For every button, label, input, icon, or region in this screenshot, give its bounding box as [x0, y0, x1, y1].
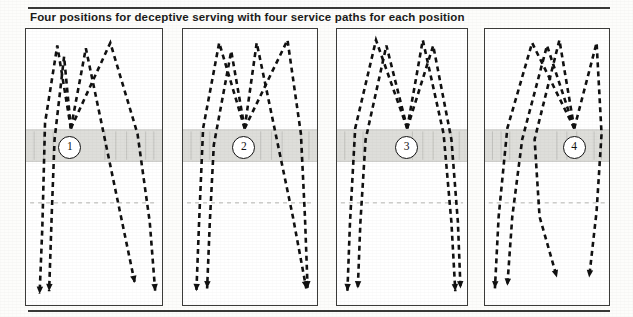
service-path-path-a — [347, 40, 407, 291]
net-band — [26, 130, 162, 162]
court-diagram-3: 3 — [336, 28, 468, 306]
path-arrowhead — [505, 278, 511, 285]
path-arrowhead — [204, 281, 210, 288]
path-arrowhead — [193, 284, 199, 291]
figure-title: Four positions for deceptive serving wit… — [30, 11, 610, 23]
court-paths-svg — [485, 29, 609, 305]
service-path-path-a — [495, 43, 574, 289]
figure-container: Four positions for deceptive serving wit… — [0, 0, 633, 317]
service-path-path-b — [507, 46, 574, 286]
service-path-path-c — [245, 43, 307, 289]
bottom-divider-rule — [28, 310, 610, 312]
court-paths-svg — [337, 29, 467, 305]
path-arrowhead — [355, 281, 361, 288]
top-divider-rule — [28, 7, 610, 9]
position-marker-3: 3 — [395, 136, 418, 159]
service-path-path-d — [71, 43, 155, 291]
path-arrowhead — [452, 284, 458, 291]
path-arrowhead — [457, 281, 463, 288]
service-path-path-b — [207, 51, 245, 288]
position-marker-4: 4 — [563, 136, 586, 159]
path-arrowhead — [37, 287, 43, 294]
path-arrowhead — [587, 270, 593, 278]
path-arrowhead — [344, 284, 350, 291]
service-path-path-c — [407, 40, 455, 291]
court-diagram-4: 4 — [484, 28, 610, 306]
path-arrowhead — [492, 281, 498, 288]
court-paths-svg — [183, 29, 317, 305]
path-arrowhead — [151, 284, 157, 291]
service-path-path-c — [71, 48, 135, 283]
court-diagram-2: 2 — [182, 28, 318, 306]
path-arrowhead — [552, 270, 558, 278]
court-paths-svg — [26, 29, 162, 305]
service-path-path-b — [49, 57, 71, 292]
path-arrowhead — [46, 284, 52, 291]
court-diagram-1: 1 — [25, 28, 163, 306]
net-band — [485, 130, 609, 162]
